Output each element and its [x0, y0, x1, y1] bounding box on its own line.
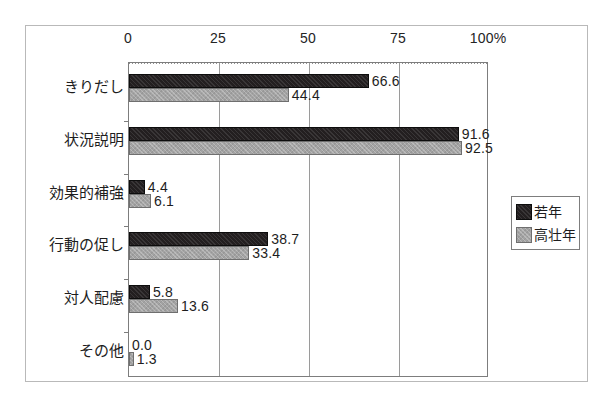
data-label-series-old-2: 6.1 [154, 194, 174, 208]
x-tick-label-100: 100% [470, 30, 507, 46]
data-label-series-young-1: 91.6 [462, 127, 490, 141]
legend-label-0: 若年 [534, 204, 562, 220]
data-label-series-young-2: 4.4 [148, 180, 168, 194]
data-label-series-old-1: 92.5 [465, 141, 493, 155]
legend-item-1[interactable]: 高壮年 [516, 223, 576, 246]
legend-item-0[interactable]: 若年 [516, 200, 576, 223]
plot-area: 66.691.64.438.75.80.044.492.56.133.413.6… [128, 62, 488, 377]
gridline-75 [399, 63, 400, 376]
data-label-series-young-3: 38.7 [271, 232, 299, 246]
category-label-2: 効果的補強 [16, 184, 124, 202]
legend: 若年高壮年 [511, 196, 580, 250]
x-tick-label-75: 75 [390, 30, 406, 46]
x-tick-label-25: 25 [210, 30, 226, 46]
x-tick-label-50: 50 [300, 30, 316, 46]
data-label-series-young-4: 5.8 [153, 285, 173, 299]
data-label-series-old-5: 1.3 [137, 352, 157, 366]
bar-chart: 0255075100% きりだし状況説明効果的補強行動の促し対人配慮その他 66… [0, 0, 601, 402]
legend-swatch-icon-0 [516, 204, 532, 220]
bar-series-young-4 [129, 285, 150, 299]
category-label-5: その他 [16, 342, 124, 360]
y-tick-1 [124, 121, 129, 122]
y-tick-3 [124, 226, 129, 227]
bar-series-young-0 [129, 74, 369, 88]
bar-series-old-1 [129, 141, 462, 155]
y-tick-5 [124, 332, 129, 333]
gridline-25 [219, 63, 220, 376]
bar-series-old-0 [129, 88, 289, 102]
bar-series-old-5 [129, 352, 134, 366]
y-tick-2 [124, 174, 129, 175]
legend-label-1: 高壮年 [534, 227, 576, 243]
y-tick-4 [124, 279, 129, 280]
data-label-series-young-5: 0.0 [132, 338, 152, 352]
bar-series-old-2 [129, 194, 151, 208]
bar-series-young-2 [129, 180, 145, 194]
bar-series-old-4 [129, 299, 178, 313]
category-label-1: 状況説明 [16, 131, 124, 149]
category-label-4: 対人配慮 [16, 289, 124, 307]
category-label-0: きりだし [16, 78, 124, 96]
data-label-series-young-0: 66.6 [372, 74, 400, 88]
bar-series-young-3 [129, 232, 268, 246]
y-axis-category-labels: きりだし状況説明効果的補強行動の促し対人配慮その他 [12, 0, 124, 402]
category-label-3: 行動の促し [16, 236, 124, 254]
data-label-series-old-0: 44.4 [292, 88, 320, 102]
plot-top-dotted-border [129, 63, 487, 64]
data-label-series-old-4: 13.6 [181, 299, 209, 313]
x-tick-label-0: 0 [124, 30, 132, 46]
bar-series-young-1 [129, 127, 459, 141]
gridline-50 [309, 63, 310, 376]
bar-series-old-3 [129, 246, 249, 260]
legend-swatch-icon-1 [516, 227, 532, 243]
data-label-series-old-3: 33.4 [252, 246, 280, 260]
